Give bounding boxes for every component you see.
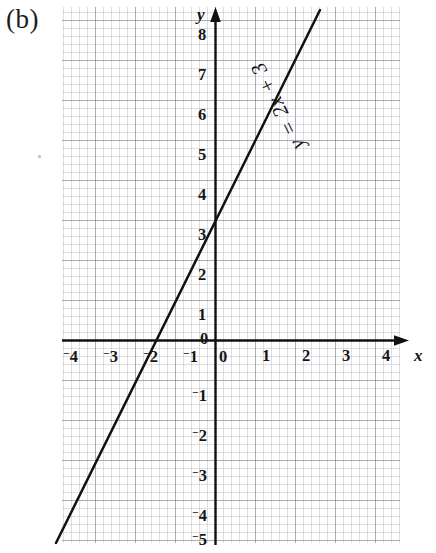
- y-tick-label-2: 2: [198, 267, 206, 284]
- x-tick-label-2: 2: [302, 348, 310, 365]
- y-origin-label: 0: [200, 331, 208, 348]
- y-tick-label--2: −2: [192, 427, 207, 444]
- y-tick-label-7: 7: [198, 67, 206, 84]
- y-tick-label--5: −5: [192, 531, 207, 548]
- x-tick-label--2: −2: [143, 348, 158, 365]
- y-tick-label--3: −3: [192, 467, 207, 484]
- x-axis-arrowhead: [394, 335, 409, 346]
- y-tick-label-6: 6: [198, 107, 206, 124]
- y-tick-label-3: 3: [198, 227, 206, 244]
- y-axis-name: y: [197, 6, 205, 23]
- y-tick-label-5: 5: [198, 147, 206, 164]
- x-origin-label: 0: [219, 349, 227, 366]
- x-tick-label-4: 4: [382, 348, 390, 365]
- y-tick-label--1: −1: [192, 387, 207, 404]
- y-tick-label--4: −4: [192, 507, 207, 524]
- y-axis-arrowhead: [210, 7, 221, 22]
- x-tick-label--3: −3: [103, 348, 118, 365]
- axes-and-plot-layer: [0, 0, 436, 553]
- x-tick-label--1: −1: [183, 348, 198, 365]
- y-tick-label-8: 8: [198, 27, 206, 44]
- y-tick-label-4: 4: [198, 187, 206, 204]
- x-axis-name: x: [414, 347, 423, 364]
- y-tick-label-1: 1: [198, 307, 206, 324]
- x-tick-label-3: 3: [342, 348, 350, 365]
- x-tick-label-1: 1: [262, 348, 270, 365]
- x-tick-label--4: −4: [63, 348, 78, 365]
